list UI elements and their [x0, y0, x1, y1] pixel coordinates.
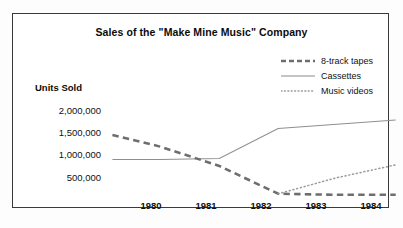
y-tick-label-2000000: 2,000,000 [21, 105, 101, 116]
y-tick-label-1500000: 1,500,000 [21, 127, 101, 138]
legend-item-cassettes: Cassettes [281, 69, 393, 83]
legend-item-music-videos: Music videos [281, 84, 393, 98]
legend-label-music-videos: Music videos [321, 86, 373, 96]
series-line-8-track-tapes [112, 135, 395, 195]
series-line-cassettes [112, 120, 395, 160]
legend-swatch-dotted-icon [281, 86, 315, 96]
y-tick-label-1000000: 1,000,000 [21, 149, 101, 160]
chart-plot-area [13, 14, 403, 228]
legend-label-8-track-tapes: 8-track tapes [321, 56, 373, 66]
y-tick-label-500000: 500,000 [21, 172, 101, 183]
legend-item-8-track-tapes: 8-track tapes [281, 54, 393, 68]
chart-legend: 8-track tapes Cassettes Music videos [281, 54, 393, 99]
chart-frame: Sales of the "Make Mine Music" Company 8… [12, 13, 389, 208]
x-tick-label-1981: 1981 [183, 200, 229, 211]
y-axis-title: Units Sold [35, 82, 82, 93]
x-tick-label-1982: 1982 [238, 200, 284, 211]
chart-figure: Sales of the "Make Mine Music" Company 8… [0, 0, 403, 228]
chart-title: Sales of the "Make Mine Music" Company [13, 26, 390, 38]
legend-swatch-dashed-icon [281, 56, 315, 66]
x-tick-label-1980: 1980 [128, 200, 174, 211]
legend-label-cassettes: Cassettes [321, 71, 361, 81]
x-tick-label-1984: 1984 [348, 200, 394, 211]
x-tick-label-1983: 1983 [293, 200, 339, 211]
series-line-music-videos [278, 165, 396, 194]
legend-swatch-solid-icon [281, 71, 315, 81]
